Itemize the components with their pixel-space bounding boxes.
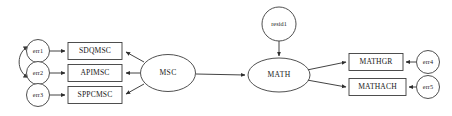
edge-math-to-mathgr — [307, 62, 346, 70]
apimsc-label: APIMSC — [80, 68, 109, 77]
msc-label: MSC — [159, 68, 176, 77]
err4-label: err4 — [423, 58, 433, 65]
node-sdqmsc[interactable]: SDQMSC — [68, 43, 122, 60]
sppcmsc-label: SPPCMSC — [78, 90, 113, 99]
math-label: MATH — [267, 70, 290, 79]
edge-msc-to-sdqmsc — [126, 52, 144, 62]
node-sppcmsc[interactable]: SPPCMSC — [68, 87, 122, 104]
err2-label: err2 — [33, 69, 43, 76]
node-err2[interactable]: err2 — [27, 62, 50, 85]
node-err3[interactable]: err3 — [27, 84, 50, 107]
node-err1[interactable]: err1 — [27, 40, 50, 63]
node-mathach[interactable]: MATHACH — [349, 79, 406, 96]
node-err4[interactable]: err4 — [417, 51, 440, 74]
diagram-canvas: err1 err2 err3 SDQMSC APIMSC SPPCMSC MSC — [0, 0, 452, 116]
sdqmsc-label: SDQMSC — [79, 46, 111, 55]
err5-label: err5 — [423, 83, 433, 90]
resid1-label: resid1 — [271, 20, 287, 27]
err3-label: err3 — [33, 91, 43, 98]
node-msc[interactable]: MSC — [141, 55, 196, 92]
node-resid1[interactable]: resid1 — [262, 7, 296, 41]
mathach-label: MATHACH — [358, 82, 397, 91]
node-err5[interactable]: err5 — [417, 76, 440, 99]
node-apimsc[interactable]: APIMSC — [68, 65, 122, 82]
mathgr-label: MATHGR — [360, 57, 394, 66]
node-math[interactable]: MATH — [248, 58, 310, 92]
err1-label: err1 — [33, 47, 43, 54]
node-mathgr[interactable]: MATHGR — [349, 54, 403, 71]
edge-msc-to-sppcmsc — [126, 84, 144, 94]
sem-path-diagram: err1 err2 err3 SDQMSC APIMSC SPPCMSC MSC — [0, 0, 452, 116]
edge-math-to-mathach — [307, 80, 346, 87]
edge-msc-to-math — [196, 74, 245, 75]
